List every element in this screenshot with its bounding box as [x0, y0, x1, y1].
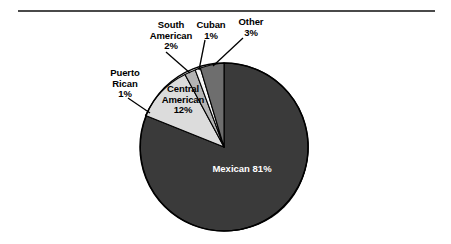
- leader-line-other: [213, 38, 243, 66]
- pie-label-cuban-line1: Cuban: [196, 19, 225, 30]
- pie-label-other-line1: Other: [239, 16, 264, 27]
- pie-label-mexican-line1: Mexican: [212, 163, 250, 174]
- pie-label-central-american: Central American 12%: [152, 84, 214, 116]
- pie-label-cuban: Cuban 1%: [190, 20, 232, 41]
- pie-label-central-american-line1: Central: [167, 83, 199, 94]
- pie-label-other: Other 3%: [232, 17, 270, 38]
- pie-label-cuban-percent: 1%: [190, 31, 232, 42]
- pie-label-mexican-percent: 81%: [253, 163, 272, 174]
- pie-label-puerto-rican-percent: 1%: [101, 89, 149, 100]
- pie-label-central-american-line2: American: [162, 94, 205, 105]
- pie-label-mexican: Mexican 81%: [212, 164, 272, 175]
- pie-chart-figure: South American 2% Cuban 1% Other 3% Puer…: [0, 0, 451, 244]
- pie-label-puerto-rican-line1: Puerto: [110, 67, 140, 78]
- pie-label-puerto-rican-line2: Rican: [112, 78, 137, 89]
- pie-label-south-american-line1: South: [158, 19, 184, 30]
- pie-label-puerto-rican: Puerto Rican 1%: [101, 68, 149, 100]
- pie-label-south-american-percent: 2%: [141, 41, 201, 52]
- leader-line-south-american: [166, 52, 190, 73]
- pie-label-other-percent: 3%: [232, 28, 270, 39]
- pie-label-central-american-percent: 12%: [152, 105, 214, 116]
- leader-line-puerto-rican: [128, 98, 150, 113]
- pie-label-south-american-line2: American: [150, 30, 193, 41]
